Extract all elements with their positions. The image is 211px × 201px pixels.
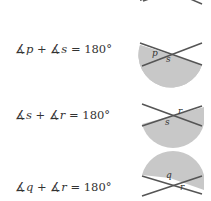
figure-label-r: r <box>180 182 185 192</box>
angle-label: s <box>26 108 32 122</box>
sum-value: 180° <box>84 180 112 194</box>
angle-symbol: ∡ <box>49 108 60 122</box>
angle-symbol: ∡ <box>50 180 61 194</box>
angle-symbol: ∡ <box>15 180 26 194</box>
figure-label-s: s <box>165 117 170 127</box>
equals-sign: = <box>71 42 81 56</box>
sum-value: 180° <box>82 108 110 122</box>
angle-label: s <box>61 42 67 56</box>
equation-p-s: ∡p + ∡s = 180° <box>15 42 112 56</box>
plus-sign: + <box>37 180 47 194</box>
equation-q-r: ∡q + ∡r = 180° <box>15 180 111 194</box>
angle-label: p <box>26 42 33 56</box>
sum-value: 180° <box>84 42 112 56</box>
angle-label: r <box>60 108 66 122</box>
figure-label-p: p <box>152 48 158 58</box>
angle-symbol: ∡ <box>15 108 26 122</box>
figure-q-r: q r <box>138 148 204 200</box>
figure-s-r: r s <box>138 102 204 154</box>
plus-sign: + <box>36 108 46 122</box>
plus-sign: + <box>37 42 47 56</box>
angle-label: r <box>61 180 67 194</box>
figure-label-s: s <box>166 54 171 64</box>
angle-symbol: ∡ <box>50 42 61 56</box>
figure-label-r: r <box>178 106 183 116</box>
angle-symbol: ∡ <box>15 42 26 56</box>
equals-sign: = <box>70 180 80 194</box>
partial-figure-top <box>138 0 204 8</box>
equation-s-r: ∡s + ∡r = 180° <box>15 108 110 122</box>
figure-p-s: p s <box>138 38 204 88</box>
figure-label-q: q <box>166 170 172 180</box>
equals-sign: = <box>69 108 79 122</box>
angle-label: q <box>26 180 33 194</box>
